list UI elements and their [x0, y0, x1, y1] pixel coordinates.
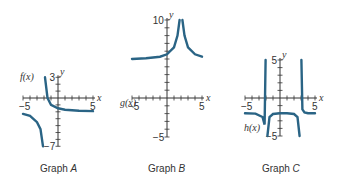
graph-caption: Graph A — [40, 163, 78, 174]
y-min-label: −5 — [153, 132, 165, 143]
function-label: g(x) — [120, 97, 137, 109]
curve-branch — [23, 114, 43, 146]
x-axis-label: x — [318, 92, 324, 103]
function-label: f(x) — [20, 71, 35, 83]
y-min-label: −7 — [44, 141, 56, 152]
graph-caption: Graph B — [148, 163, 186, 174]
y-axis-label: y — [59, 66, 65, 77]
graph-a: −553−7xyf(x)Graph A — [19, 66, 102, 174]
y-max-label: 3 — [49, 72, 55, 83]
x-min-label: −5 — [241, 101, 253, 112]
x-min-label: −5 — [19, 101, 31, 112]
x-axis-label: x — [96, 92, 102, 103]
function-label: h(x) — [244, 122, 261, 134]
graph-c: −555−5xyh(x)Graph C — [241, 49, 324, 174]
y-axis-label: y — [281, 49, 287, 60]
x-axis-label: x — [205, 92, 211, 103]
graph-b: −5510−5xyg(x)Graph B — [120, 9, 211, 174]
curve-branch — [245, 60, 266, 125]
graph-caption: Graph C — [262, 163, 301, 174]
y-max-label: 10 — [153, 15, 165, 26]
y-max-label: 5 — [271, 55, 277, 66]
x-max-label: 5 — [199, 101, 205, 112]
graphs-figure: −553−7xyf(x)Graph A −5510−5xyg(x)Graph B… — [0, 0, 340, 185]
y-axis-label: y — [168, 9, 174, 20]
curve-branch — [182, 20, 202, 57]
x-max-label: 5 — [312, 101, 318, 112]
